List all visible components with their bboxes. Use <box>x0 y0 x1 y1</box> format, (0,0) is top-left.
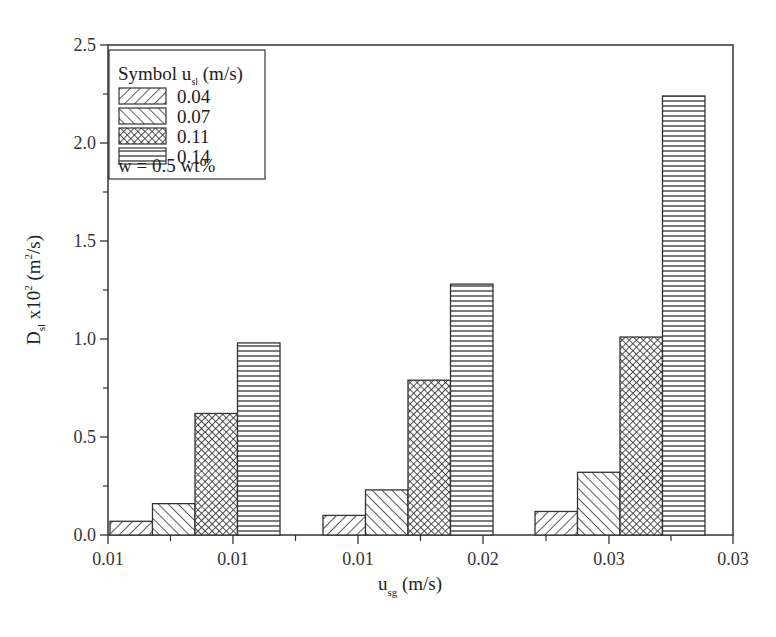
bar-usl-0.14 <box>451 284 494 535</box>
legend-note: w = 0.5 wt% <box>118 155 215 176</box>
legend-label: 0.11 <box>177 126 210 147</box>
legend-title: Symbol usl (m/s) <box>118 63 243 87</box>
bar-usl-0.07 <box>153 504 196 535</box>
legend: Symbol usl (m/s) 0.040.070.110.14 w = 0.… <box>109 50 265 179</box>
y-tick-label: 0.5 <box>74 427 97 447</box>
y-tick-label: 1.5 <box>74 231 97 251</box>
bar-usl-0.04 <box>323 515 366 535</box>
legend-label: 0.04 <box>177 86 211 107</box>
x-tick-label: 0.01 <box>342 549 374 569</box>
y-axis-title: Dsl x102 (m2/s) <box>22 235 47 345</box>
bar-usl-0.04 <box>110 521 153 535</box>
y-axis: 0.00.51.01.52.02.5 <box>74 35 109 545</box>
y-tick-label: 2.0 <box>74 133 97 153</box>
legend-swatch-0.04 <box>119 88 166 104</box>
y-tick-label: 2.5 <box>74 35 97 55</box>
x-axis-title: usg (m/s) <box>378 573 442 598</box>
legend-label: 0.07 <box>177 106 210 127</box>
x-tick-label: 0.02 <box>467 549 499 569</box>
bar-usl-0.04 <box>535 511 578 535</box>
bar-usl-0.07 <box>366 490 409 535</box>
bar-usl-0.14 <box>663 96 706 535</box>
bar-usl-0.14 <box>238 343 281 535</box>
bar-chart: 0.00.51.01.52.02.5 0.010.010.010.020.030… <box>0 0 776 637</box>
x-tick-label: 0.03 <box>717 549 749 569</box>
y-tick-label: 1.0 <box>74 329 97 349</box>
bar-usl-0.11 <box>195 413 238 535</box>
bar-usl-0.11 <box>408 380 451 535</box>
x-tick-label: 0.01 <box>217 549 249 569</box>
bar-usl-0.07 <box>578 472 621 535</box>
y-tick-label: 0.0 <box>74 525 97 545</box>
legend-swatch-0.07 <box>119 108 166 124</box>
x-tick-label: 0.03 <box>593 549 625 569</box>
legend-swatch-0.11 <box>119 128 166 144</box>
x-axis: 0.010.010.010.020.030.03 <box>92 535 749 569</box>
bar-usl-0.11 <box>620 337 663 535</box>
x-tick-label: 0.01 <box>92 549 124 569</box>
